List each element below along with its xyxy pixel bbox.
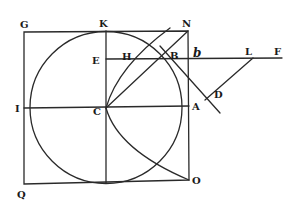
label-E: E xyxy=(92,55,100,66)
label-C: C xyxy=(93,106,101,117)
label-H: H xyxy=(122,51,131,62)
label-Q: Q xyxy=(17,189,26,200)
label-A: A xyxy=(191,101,200,112)
label-F: F xyxy=(274,46,281,57)
line-CN xyxy=(106,31,188,108)
label-G: G xyxy=(20,19,29,30)
curve-CO xyxy=(106,108,189,180)
label-O: O xyxy=(192,175,201,186)
label-N: N xyxy=(182,18,191,29)
line-BD xyxy=(160,46,220,113)
curve-CH xyxy=(106,28,170,108)
geometry-figure: G K N E H B b L F I C A D Q O xyxy=(0,0,295,212)
line-LD xyxy=(205,58,253,100)
label-D: D xyxy=(214,89,223,100)
label-I: I xyxy=(15,103,20,114)
label-B: B xyxy=(170,50,178,61)
label-L: L xyxy=(245,46,252,57)
label-K: K xyxy=(99,18,108,29)
label-b: b xyxy=(193,46,201,60)
